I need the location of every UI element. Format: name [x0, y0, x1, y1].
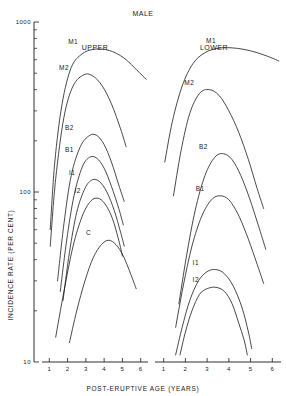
- x-tick-label: 3: [205, 366, 209, 372]
- curve-label-lower-i2: I2: [193, 276, 199, 283]
- x-tick-label: 6: [139, 366, 143, 372]
- panel-upper: 123456UPPERM1M2B2B1I1I2C: [42, 38, 148, 372]
- curve-label-lower-m2: M2: [184, 79, 194, 86]
- curve-lower-i1: [176, 269, 252, 355]
- curve-label-upper-m1: M1: [68, 38, 78, 45]
- x-tick-label: 1: [47, 366, 51, 372]
- chart-title: MALE: [132, 10, 153, 17]
- x-tick-label: 1: [162, 366, 166, 372]
- x-tick-label: 6: [270, 366, 274, 372]
- curve-upper-m2: [50, 74, 126, 246]
- y-tick-label: 10: [23, 359, 31, 365]
- x-tick-label: 2: [183, 366, 187, 372]
- x-tick-label: 5: [120, 366, 124, 372]
- x-tick-label: 4: [227, 366, 231, 372]
- curve-label-lower-i1: I1: [193, 259, 199, 266]
- x-tick-label: 3: [84, 366, 88, 372]
- curve-lower-b1: [176, 196, 264, 328]
- curve-label-upper-i2: I2: [75, 187, 81, 194]
- plot-root: 100010010123456UPPERM1M2B2B1I1I2C123456L…: [16, 19, 281, 372]
- curve-label-upper-b1: B1: [65, 146, 74, 153]
- chart-figure: MALE INCIDENCE RATE (PER CENT) POST-ERUP…: [0, 0, 286, 396]
- curve-lower-m2: [173, 90, 263, 209]
- curve-label-lower-m1: M1: [206, 37, 216, 44]
- y-axis-title: INCIDENCE RATE (PER CENT): [7, 210, 15, 321]
- curve-upper-c: [69, 240, 136, 342]
- y-tick-label: 1000: [16, 19, 32, 25]
- curve-label-upper-i1: I1: [69, 169, 75, 176]
- curve-label-upper-m2: M2: [59, 64, 69, 71]
- x-tick-label: 2: [66, 366, 70, 372]
- x-tick-label: 5: [249, 366, 253, 372]
- curve-label-upper-c: C: [86, 229, 91, 236]
- y-tick-label: 100: [19, 189, 31, 195]
- curve-upper-b2: [58, 134, 125, 281]
- curve-label-upper-b2: B2: [65, 124, 74, 131]
- x-tick-label: 4: [102, 366, 106, 372]
- curve-label-lower-b1: B1: [196, 185, 205, 192]
- panel-label-upper: UPPER: [82, 44, 109, 51]
- curve-label-lower-b2: B2: [199, 143, 208, 150]
- x-axis-title: POST-ERUPTIVE AGE (YEARS): [87, 385, 200, 393]
- curve-upper-m1: [50, 49, 146, 230]
- chart-svg: MALE INCIDENCE RATE (PER CENT) POST-ERUP…: [0, 0, 286, 396]
- curve-lower-i2: [180, 287, 247, 355]
- panel-lower: 123456LOWERM1M2B2B1I1I2: [155, 37, 281, 372]
